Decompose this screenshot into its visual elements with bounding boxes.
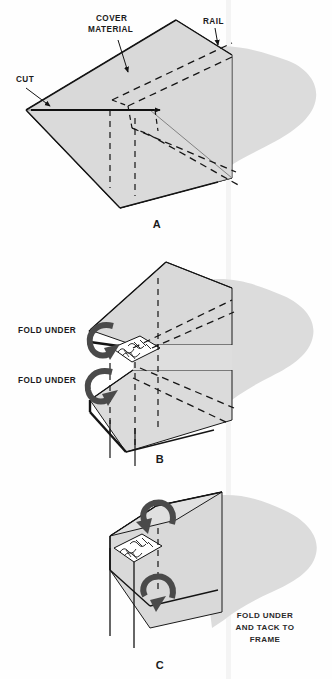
cover-material-label-line1: COVER <box>96 14 127 23</box>
panel-letter-c: C <box>156 659 164 671</box>
panel-letter-b: B <box>156 453 164 465</box>
fold-under-upper-label: FOLD UNDER <box>18 326 76 335</box>
cut-label: CUT <box>16 75 34 84</box>
panel-letter-a: A <box>153 218 161 230</box>
fold-under-lower-label: FOLD UNDER <box>18 376 76 385</box>
fold-tack-label-line2: AND TACK TO <box>236 623 295 632</box>
rail-label: RAIL <box>203 17 224 26</box>
fold-tack-label-line3: FRAME <box>250 635 281 644</box>
fold-tack-label-line1: FOLD UNDER <box>237 611 293 620</box>
cover-material-label-line2: MATERIAL <box>88 25 133 34</box>
upholstery-fold-figure: COVER MATERIAL RAIL CUT A <box>0 0 332 679</box>
